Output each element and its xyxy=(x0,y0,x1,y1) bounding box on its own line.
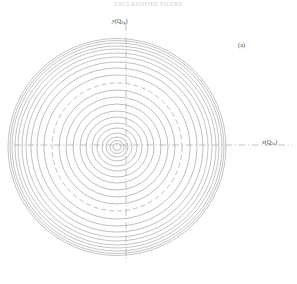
contour-line xyxy=(22,53,212,241)
y-axis-label: y(Q2p) xyxy=(112,17,128,24)
contour-line xyxy=(97,128,137,166)
y-axis-label-subscript: 2p xyxy=(121,20,125,25)
contour-line xyxy=(18,49,216,245)
x-axis-label: x(Q2a) xyxy=(262,138,277,145)
contour-line xyxy=(12,43,222,251)
x-axis-label-close: ) xyxy=(275,138,277,145)
contour-line xyxy=(31,62,203,232)
contour-line xyxy=(66,97,168,197)
panel-label: (a) xyxy=(238,41,245,48)
contour-plot-canvas xyxy=(0,0,297,284)
contour-line xyxy=(26,57,208,237)
contour-line xyxy=(59,90,175,204)
contour-line xyxy=(8,39,226,256)
contour-line xyxy=(106,137,128,157)
contour-line xyxy=(15,46,219,248)
contour-line xyxy=(110,141,124,154)
contour-line xyxy=(86,117,148,177)
contour-dashed xyxy=(52,83,182,211)
contour-figure: UNCLASSIFIED FIGURE y(Q2p) x(Q2a) (a) xyxy=(0,0,297,284)
contour-line-group xyxy=(8,39,226,256)
contour-line xyxy=(92,123,142,171)
contour-line xyxy=(80,111,154,183)
y-axis-label-close: ) xyxy=(125,17,127,24)
contour-line xyxy=(10,41,224,254)
contour-line xyxy=(37,68,197,226)
contour-line xyxy=(113,144,121,151)
x-axis-label-subscript: 2a xyxy=(271,141,275,146)
